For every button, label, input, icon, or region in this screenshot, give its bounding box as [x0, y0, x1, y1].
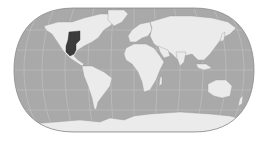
- world-map-svg: [0, 0, 268, 144]
- world-map: [0, 0, 268, 144]
